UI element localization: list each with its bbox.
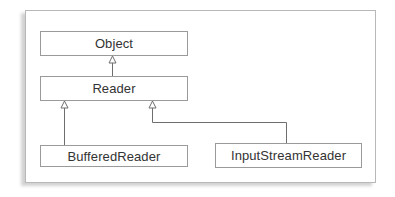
- class-label: Object: [95, 36, 133, 51]
- edge-isr-reader: [153, 108, 287, 143]
- class-box-reader: Reader: [40, 76, 188, 101]
- hollow-arrowhead-icon: [149, 101, 156, 108]
- class-label: InputStreamReader: [231, 148, 346, 163]
- hollow-arrowhead-icon: [109, 56, 116, 63]
- class-box-input-stream-reader: InputStreamReader: [215, 143, 362, 168]
- class-box-object: Object: [40, 31, 188, 56]
- class-box-buffered-reader: BufferedReader: [40, 145, 188, 167]
- hollow-arrowhead-icon: [61, 101, 68, 108]
- class-label: BufferedReader: [68, 149, 161, 164]
- class-label: Reader: [92, 81, 135, 96]
